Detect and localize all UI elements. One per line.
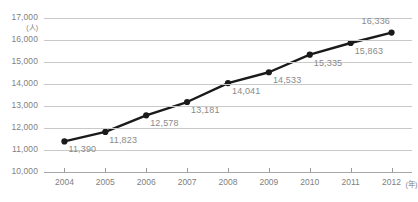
- data-point-marker[interactable]: [184, 99, 190, 105]
- gridline: [44, 62, 412, 63]
- data-point-label: 14,041: [232, 86, 260, 96]
- data-point-marker[interactable]: [266, 69, 272, 75]
- data-point-marker[interactable]: [102, 129, 108, 135]
- data-point-label: 14,533: [273, 75, 301, 85]
- gridline: [44, 40, 412, 41]
- x-axis-tick: [228, 168, 229, 172]
- data-point-label: 16,336: [362, 16, 390, 26]
- data-point-label: 15,335: [314, 58, 342, 68]
- x-axis-baseline: [44, 172, 412, 173]
- data-point-marker[interactable]: [61, 138, 67, 144]
- gridline: [44, 18, 412, 19]
- y-axis-tick-label: 12,000: [0, 122, 38, 132]
- y-axis-unit-label: (人): [0, 22, 38, 32]
- data-point-label: 11,390: [68, 144, 96, 154]
- data-point-marker[interactable]: [388, 30, 394, 36]
- x-axis-tick: [351, 168, 352, 172]
- x-axis-tick-label: 2007: [178, 177, 197, 187]
- x-axis-tick-label: 2005: [96, 177, 115, 187]
- x-axis-tick: [310, 168, 311, 172]
- data-point-label: 13,181: [191, 105, 219, 115]
- x-axis-tick: [269, 168, 270, 172]
- x-axis-tick-label: 2010: [300, 177, 319, 187]
- series-line: [44, 18, 412, 172]
- y-axis-tick-label: 13,000: [0, 100, 38, 110]
- x-axis-tick-label: 2006: [137, 177, 156, 187]
- y-axis-tick-label: 16,000: [0, 34, 38, 44]
- gridline: [44, 84, 412, 85]
- x-axis-tick: [187, 168, 188, 172]
- gridline: [44, 150, 412, 151]
- x-axis-tick-label: 2012: [382, 177, 401, 187]
- gridline: [44, 128, 412, 129]
- y-axis-tick-label: 15,000: [0, 56, 38, 66]
- x-axis-tick: [392, 168, 393, 172]
- y-axis-tick-label: 10,000: [0, 166, 38, 176]
- x-axis-tick-label: 2011: [342, 177, 360, 187]
- x-axis-tick-label: 2009: [259, 177, 278, 187]
- data-line: [64, 33, 391, 142]
- x-axis-unit-label: (年): [406, 178, 418, 189]
- y-axis-tick-label: 11,000: [0, 144, 38, 154]
- x-axis-tick: [146, 168, 147, 172]
- data-point-label: 12,578: [150, 118, 178, 128]
- x-axis-tick-label: 2004: [55, 177, 74, 187]
- data-point-marker[interactable]: [307, 52, 313, 58]
- data-point-marker[interactable]: [143, 112, 149, 118]
- data-point-label: 11,823: [109, 135, 137, 145]
- line-chart: 10,00011,00012,00013,00014,00015,00016,0…: [0, 0, 418, 202]
- plot-area: [44, 18, 412, 172]
- y-axis-tick-label: 17,000: [0, 12, 38, 22]
- y-axis-tick-label: 14,000: [0, 78, 38, 88]
- gridline: [44, 106, 412, 107]
- x-axis-tick-label: 2008: [219, 177, 238, 187]
- x-axis-tick: [64, 168, 65, 172]
- x-axis-tick: [105, 168, 106, 172]
- data-point-label: 15,863: [355, 46, 383, 56]
